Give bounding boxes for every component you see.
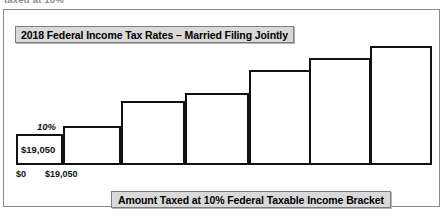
bar-7 bbox=[370, 46, 432, 165]
rate-label-10-percent: 10% bbox=[37, 121, 56, 132]
chart-caption: Amount Taxed at 10% Federal Taxable Inco… bbox=[111, 191, 391, 208]
screenshot-root: taxed at 10% 10% $19,050 $0 $19,050 2018… bbox=[0, 0, 446, 217]
clipped-top-text: taxed at 10% bbox=[4, 0, 184, 3]
bar-3 bbox=[121, 101, 185, 165]
bar-1-value-label: $19,050 bbox=[21, 144, 55, 155]
figure-frame: 10% $19,050 $0 $19,050 2018 Federal Inco… bbox=[3, 9, 440, 207]
bar-4 bbox=[185, 93, 249, 165]
axis-tick-0: $0 bbox=[16, 169, 26, 179]
bar-2 bbox=[63, 126, 121, 165]
bar-5 bbox=[249, 70, 311, 165]
bar-6 bbox=[309, 58, 371, 165]
chart-title: 2018 Federal Income Tax Rates – Married … bbox=[15, 26, 294, 43]
axis-tick-19050: $19,050 bbox=[45, 169, 78, 179]
